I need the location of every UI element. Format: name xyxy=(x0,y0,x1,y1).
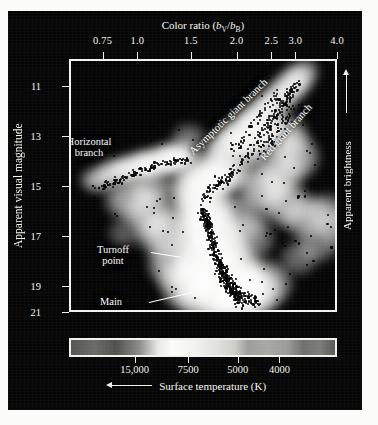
star-point xyxy=(156,200,158,202)
star-point xyxy=(157,163,159,165)
star-point xyxy=(222,264,224,266)
top-axis-tick xyxy=(295,52,296,59)
star-point xyxy=(250,295,252,297)
glow-blob xyxy=(238,164,290,212)
star-point xyxy=(330,226,332,228)
top-axis-tick xyxy=(237,52,238,59)
star-point xyxy=(259,132,262,135)
star-point xyxy=(149,226,151,228)
star-point xyxy=(162,230,164,232)
star-point xyxy=(208,228,210,230)
star-point xyxy=(136,172,138,174)
star-point xyxy=(247,303,249,305)
star-point xyxy=(226,271,228,273)
star-point xyxy=(258,304,260,306)
star-point xyxy=(216,236,218,238)
star-point xyxy=(248,157,250,159)
star-point xyxy=(215,246,217,248)
left-axis-tick xyxy=(62,186,69,187)
star-point xyxy=(334,115,336,117)
star-point xyxy=(286,88,288,90)
star-point xyxy=(173,197,175,199)
star-point xyxy=(264,109,266,111)
star-point xyxy=(206,239,208,241)
star-point xyxy=(264,103,266,105)
star-point xyxy=(289,273,291,275)
top-axis-tick xyxy=(271,52,272,59)
star-point xyxy=(278,212,280,214)
star-point xyxy=(326,223,328,225)
star-point xyxy=(121,182,124,185)
star-point xyxy=(261,173,263,175)
annotation-line: branch xyxy=(69,147,111,158)
star-point xyxy=(262,144,264,146)
star-point xyxy=(208,236,210,238)
star-point xyxy=(169,160,171,162)
star-point xyxy=(287,226,289,228)
star-point xyxy=(269,128,272,131)
star-point xyxy=(206,221,208,223)
bottom-axis-tick xyxy=(188,357,189,363)
star-point xyxy=(247,161,249,163)
star-point xyxy=(184,162,187,165)
figure-container: Color ratio (bV/bB) Apparent visual magn… xyxy=(0,0,378,425)
left-axis-tick-label: 11 xyxy=(31,81,41,92)
star-point xyxy=(241,159,243,161)
star-point xyxy=(146,206,148,208)
star-point xyxy=(304,195,306,197)
star-point xyxy=(215,251,217,253)
star-point xyxy=(279,98,281,100)
up-arrow-icon xyxy=(346,73,347,113)
star-point xyxy=(272,288,274,290)
star-point xyxy=(249,279,251,281)
star-point xyxy=(291,88,293,90)
star-point xyxy=(273,92,275,94)
star-point xyxy=(114,176,116,178)
left-axis-tick-label: 13 xyxy=(31,131,42,142)
star-point xyxy=(271,120,273,122)
star-point xyxy=(231,274,233,276)
star-point xyxy=(102,188,104,190)
star-point xyxy=(112,186,114,188)
star-point xyxy=(310,235,312,237)
star-point xyxy=(171,286,173,288)
star-point xyxy=(116,215,118,217)
star-point xyxy=(149,168,151,170)
star-point xyxy=(247,148,249,150)
star-point xyxy=(306,264,308,266)
star-point xyxy=(257,122,260,125)
left-axis-tick xyxy=(62,86,69,87)
star-point xyxy=(253,150,255,152)
star-point xyxy=(284,156,286,158)
temperature-color-strip-gradient xyxy=(71,340,335,355)
star-point xyxy=(276,93,278,95)
star-point xyxy=(141,170,143,172)
star-point xyxy=(237,169,239,171)
star-point xyxy=(212,191,214,193)
annotation-horizontal-branch: Horizontalbranch xyxy=(69,136,111,159)
star-point xyxy=(203,223,205,225)
star-point xyxy=(258,145,260,147)
left-axis-tick-label: 17 xyxy=(31,230,42,241)
star-point xyxy=(219,281,221,283)
star-point xyxy=(304,190,306,192)
star-point xyxy=(152,126,154,128)
star-point xyxy=(153,207,155,209)
star-point xyxy=(269,115,271,117)
star-point xyxy=(262,293,264,295)
star-point xyxy=(265,208,267,210)
star-point xyxy=(275,99,277,101)
star-point xyxy=(238,143,241,146)
star-point xyxy=(200,212,202,214)
star-point xyxy=(294,87,296,89)
star-point xyxy=(309,152,311,154)
star-point xyxy=(242,224,244,226)
bottom-axis-tick xyxy=(238,357,239,363)
star-point xyxy=(213,241,215,243)
star-point xyxy=(201,85,203,87)
star-point xyxy=(276,89,278,91)
star-point xyxy=(202,200,204,202)
star-point xyxy=(242,142,244,144)
star-point xyxy=(275,117,277,119)
star-point xyxy=(271,100,273,102)
